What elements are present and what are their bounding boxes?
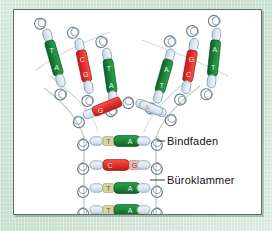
svg-text:A: A [54,64,59,71]
svg-text:T: T [107,65,112,72]
svg-text:C: C [80,56,85,63]
figure-frame: T A C G T A G [0,0,272,231]
svg-text:T: T [106,185,111,192]
svg-text:A: A [164,66,169,73]
ladder-rung-1: T A [78,136,163,151]
svg-text:A: A [128,185,133,192]
svg-text:A: A [128,138,133,145]
svg-text:T: T [49,47,54,54]
fork-right-free-clip: A [121,93,179,127]
fork-right-base-2: G C [174,25,202,107]
illustration-panel: T A C G T A G [13,9,262,215]
svg-text:A: A [109,82,114,89]
label-bindfaden: Bindfaden [167,135,218,147]
fork-left-base-2: C G [66,26,97,108]
fork-right-base-3: A T [200,15,223,101]
svg-text:A: A [128,207,133,214]
svg-text:A: A [213,46,218,53]
svg-text:C: C [186,71,191,78]
svg-text:G: G [98,107,103,114]
svg-text:T: T [106,138,111,145]
svg-text:A: A [145,104,150,111]
svg-text:C: C [107,162,112,169]
svg-text:T: T [159,82,164,89]
svg-text:G: G [83,71,88,78]
ladder-rung-3: T A [78,183,163,198]
svg-text:T: T [106,207,111,214]
label-bueroklammer: Büroklammer [167,174,235,186]
svg-text:G: G [189,56,194,63]
ladder-rung-4: T A [78,205,163,214]
ladder-rung-2: C G [78,160,163,175]
svg-text:G: G [132,162,137,169]
svg-text:T: T [211,64,216,71]
